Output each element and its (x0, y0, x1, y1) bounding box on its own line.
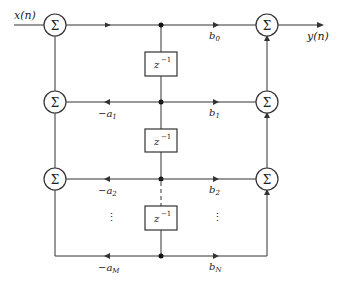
svg-text:−1: −1 (161, 210, 171, 218)
delay-block-1: z −1 (145, 52, 177, 76)
svg-text:z: z (153, 136, 160, 147)
svg-text:Σ: Σ (51, 173, 59, 187)
coef-am: −aM (98, 262, 120, 275)
sum-right-2: Σ (256, 168, 278, 190)
svg-text:−1: −1 (161, 56, 171, 64)
sum-right-1: Σ (256, 91, 278, 113)
arrow-bn (213, 253, 219, 259)
arrow-b1 (213, 99, 219, 105)
ellipsis-left: ⋮ (106, 211, 117, 224)
arrow-a2 (104, 176, 110, 182)
output-arrow-icon (317, 22, 324, 28)
arrow-b0 (213, 22, 219, 28)
coef-a1: −a1 (98, 108, 117, 121)
coef-bn: bN (209, 261, 222, 274)
svg-text:−1: −1 (161, 133, 171, 141)
sum-left-1: Σ (44, 91, 66, 113)
node-m (159, 254, 164, 259)
svg-text:Σ: Σ (263, 173, 271, 187)
arrow-a1 (104, 99, 110, 105)
node-0 (159, 23, 164, 28)
svg-text:Σ: Σ (263, 96, 271, 110)
coef-b2: b2 (209, 184, 220, 197)
svg-text:Σ: Σ (263, 19, 271, 33)
sum-left-2: Σ (44, 168, 66, 190)
svg-text:z: z (153, 59, 160, 70)
arrow-am (104, 253, 110, 259)
diagram-canvas: x(n) y(n) z −1 z −1 z −1 −a1 (0, 0, 338, 284)
delay-block-3: z −1 (145, 206, 177, 230)
coef-a2: −a2 (98, 185, 117, 198)
sum-right-0: Σ (256, 14, 278, 36)
delay-block-2: z −1 (145, 129, 177, 152)
svg-text:z: z (153, 213, 160, 224)
sum-left-0: Σ (44, 14, 66, 36)
svg-text:Σ: Σ (51, 96, 59, 110)
coef-b0: b0 (209, 30, 220, 43)
coef-b1: b1 (209, 107, 220, 120)
input-label: x(n) (14, 9, 36, 22)
svg-text:Σ: Σ (51, 19, 59, 33)
output-label: y(n) (306, 30, 329, 43)
arrow-b2 (213, 176, 219, 182)
ellipsis-right: ⋮ (212, 211, 223, 224)
